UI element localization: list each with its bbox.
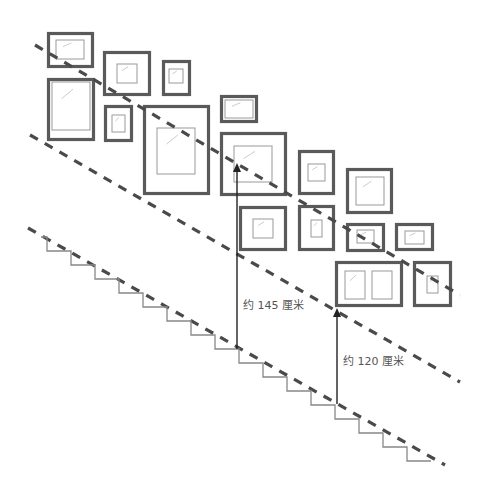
picture-frame [164, 62, 190, 95]
picture-frame [49, 80, 94, 140]
lower-height-label: 约 120 厘米 [343, 352, 404, 368]
picture-frame [49, 34, 93, 67]
picture-frame [222, 97, 257, 122]
picture-frame [241, 208, 286, 250]
picture-frame [348, 170, 392, 213]
picture-frame [145, 107, 209, 194]
picture-frame [106, 107, 132, 141]
upper-guide-dashed-line [35, 45, 460, 295]
picture-frame [415, 263, 451, 306]
picture-frame [397, 225, 433, 250]
upper-height-label: 约 145 厘米 [243, 296, 304, 312]
picture-frame [300, 152, 334, 194]
picture-frame [300, 207, 334, 250]
picture-frames [49, 34, 451, 306]
stair-gallery-diagram [0, 0, 485, 498]
